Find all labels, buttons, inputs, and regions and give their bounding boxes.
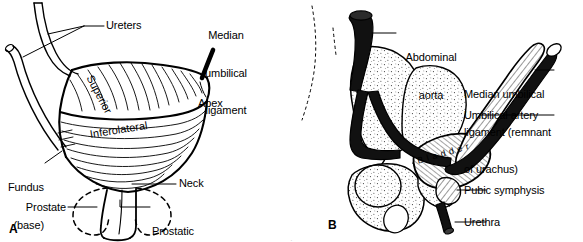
label-fundus-base-line1: Fundus (0, 181, 44, 194)
panel-a-letter: A (9, 222, 18, 236)
urethra-tube (436, 202, 454, 235)
label-abdominal-aorta: Abdominal aorta (396, 26, 466, 126)
aorta-dashed-stub (333, 28, 336, 55)
body-wall-dashed-contour (302, 6, 316, 120)
right-ureter-tube (34, 3, 78, 76)
label-median-umbilical-ligament-a-line1: Median (183, 29, 269, 42)
label-ureters: Ureters (106, 19, 141, 32)
label-median-umbilical-ligament-b-line1: Median umbilical (464, 88, 583, 101)
label-apex: Apex (198, 97, 223, 110)
label-prostate: Prostate (16, 201, 66, 214)
label-umbilical-artery: Umbilical artery (464, 109, 538, 122)
label-neck: Neck (179, 177, 204, 190)
pubic-symphysis (436, 177, 461, 204)
prostatic-urethra-tube (101, 189, 136, 240)
panel-b-letter: B (328, 218, 337, 232)
label-pubic-symphysis: Pubic symphysis (464, 184, 544, 197)
label-fundus-base: Fundus (base) (0, 156, 44, 242)
label-median-umbilical-ligament-a: Median umbilical ligament (183, 4, 269, 142)
label-abdominal-aorta-line2: aorta (396, 89, 466, 102)
panel-a: Ureters Median umbilical ligament Apex S… (0, 0, 292, 242)
panel-b: Abdominal aorta Median umbilical ligamen… (292, 0, 583, 242)
label-abdominal-aorta-line1: Abdominal (396, 51, 466, 64)
cropped-caption-strip: · (0, 236, 583, 242)
left-ureter-tube (4, 43, 66, 150)
label-median-umbilical-ligament-a-line2: umbilical (183, 67, 269, 80)
label-median-umbilical-ligament-b-line3: of urachus) (464, 163, 572, 176)
urethra-lumen-line (119, 190, 122, 234)
label-median-umbilical-ligament-b: Median umbilical ligament (remnant of ur… (464, 63, 583, 201)
label-fundus-base-line2: (base) (0, 219, 44, 232)
label-urethra: Urethra (464, 216, 500, 229)
label-median-umbilical-ligament-a-line3: ligament (183, 104, 269, 117)
label-median-umbilical-ligament-b-line2: ligament (remnant (464, 126, 583, 139)
anatomy-figure: Ureters Median umbilical ligament Apex S… (0, 0, 583, 242)
